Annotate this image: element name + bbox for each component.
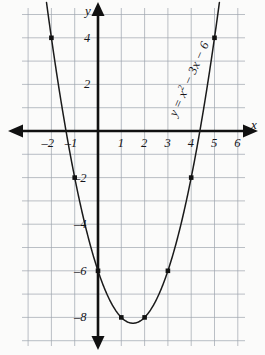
data-point-marker	[212, 36, 217, 41]
x-axis-label: x	[251, 118, 257, 131]
x-tick-label: 1	[118, 137, 124, 150]
y-axis-label: y	[85, 4, 91, 17]
x-tick-label: –1	[65, 137, 78, 150]
x-tick-label: 2	[141, 137, 147, 150]
data-point-marker	[119, 315, 124, 320]
graph-figure: –2–1123456 42–2–4–6–8 x y y = x2 − 3x − …	[0, 0, 265, 355]
coordinate-plane-svg	[0, 0, 265, 355]
y-tick-label: –4	[74, 218, 87, 231]
x-axis-arrow-left-icon	[8, 125, 23, 138]
y-tick-label: –2	[74, 172, 87, 185]
x-tick-label: 4	[188, 137, 194, 150]
y-axis-arrow-down-icon	[92, 336, 105, 350]
data-point-marker	[49, 36, 54, 41]
x-tick-label: –2	[41, 137, 54, 150]
y-tick-label: –8	[74, 311, 87, 324]
y-axis-arrow-up-icon	[92, 2, 105, 16]
data-point-marker	[142, 315, 147, 320]
data-point-marker	[166, 269, 171, 274]
x-tick-label: 3	[164, 137, 170, 150]
y-tick-label: –6	[74, 265, 87, 278]
y-tick-label: 2	[84, 78, 90, 91]
data-point-marker	[189, 175, 194, 180]
y-tick-label: 4	[84, 32, 90, 45]
data-point-marker	[96, 269, 101, 274]
x-tick-label: 6	[234, 137, 240, 150]
axes	[8, 2, 258, 350]
x-tick-label: 5	[211, 137, 217, 150]
